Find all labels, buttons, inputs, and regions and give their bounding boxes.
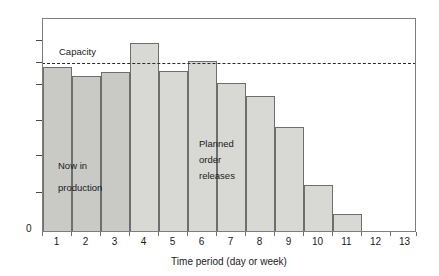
bar-period-3: [101, 72, 130, 231]
bar-period-11: [333, 214, 362, 231]
x-axis-label-1: 1: [42, 236, 71, 247]
bar-period-6: [188, 61, 217, 231]
x-axis-label-9: 9: [274, 236, 303, 247]
bar-period-1: [43, 67, 72, 231]
plot-area: Capacity Now in production Planned order…: [42, 18, 416, 232]
x-axis-title: Time period (day or week): [42, 256, 416, 267]
x-axis-label-5: 5: [158, 236, 187, 247]
bar-period-5: [159, 71, 188, 231]
plot-inner: Capacity Now in production Planned order…: [43, 19, 415, 231]
x-axis-label-7: 7: [216, 236, 245, 247]
x-axis-label-13: 13: [390, 236, 419, 247]
bar-period-8: [246, 96, 275, 231]
x-axis-label-4: 4: [129, 236, 158, 247]
x-axis-label-11: 11: [332, 236, 361, 247]
bar-period-4: [130, 43, 159, 231]
bar-period-7: [217, 83, 246, 231]
annotation-capacity: Capacity: [59, 45, 96, 58]
load-profile-chart: Load (hours) 0: [0, 0, 439, 276]
bar-period-9: [275, 127, 304, 231]
x-axis-label-2: 2: [71, 236, 100, 247]
x-axis-label-6: 6: [187, 236, 216, 247]
bar-period-2: [72, 76, 101, 231]
y-axis-zero-label: 0: [26, 224, 32, 234]
x-axis-label-3: 3: [100, 236, 129, 247]
capacity-reference-line: [42, 63, 416, 64]
x-axis-label-12: 12: [361, 236, 390, 247]
x-axis-label-10: 10: [303, 236, 332, 247]
bar-period-10: [304, 185, 333, 231]
x-axis-label-8: 8: [245, 236, 274, 247]
